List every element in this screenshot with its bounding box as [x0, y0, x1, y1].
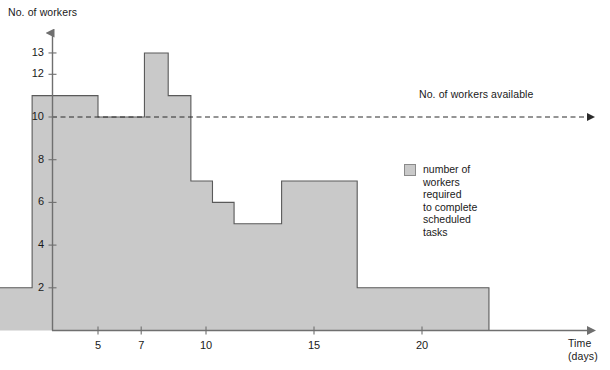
x-tick-label: 20 — [409, 339, 435, 351]
x-tick-label: 15 — [301, 339, 327, 351]
x-axis-title-line1: Time — [568, 337, 591, 349]
y-tick-label: 10 — [18, 110, 44, 122]
y-tick-label: 13 — [18, 46, 44, 58]
x-tick-label: 5 — [85, 339, 111, 351]
y-tick-label: 4 — [18, 238, 44, 250]
histogram-chart: No. of workers Time(days) No. of workers… — [0, 0, 610, 370]
y-tick-label: 6 — [18, 195, 44, 207]
x-tick-label: 7 — [128, 339, 154, 351]
x-axis-title: Time(days) — [568, 337, 598, 362]
y-tick-label: 2 — [18, 281, 44, 293]
legend-label: number of workers required to complete s… — [423, 163, 477, 239]
x-axis-title-line2: (days) — [568, 350, 598, 362]
chart-canvas — [0, 0, 610, 370]
y-tick-label: 8 — [18, 153, 44, 165]
x-tick-label: 10 — [193, 339, 219, 351]
y-axis-title: No. of workers — [8, 6, 77, 19]
y-tick-label: 12 — [18, 67, 44, 79]
legend-swatch-icon — [404, 164, 416, 176]
chart-legend: number of workers required to complete s… — [404, 163, 477, 239]
workers-available-label: No. of workers available — [419, 88, 533, 101]
